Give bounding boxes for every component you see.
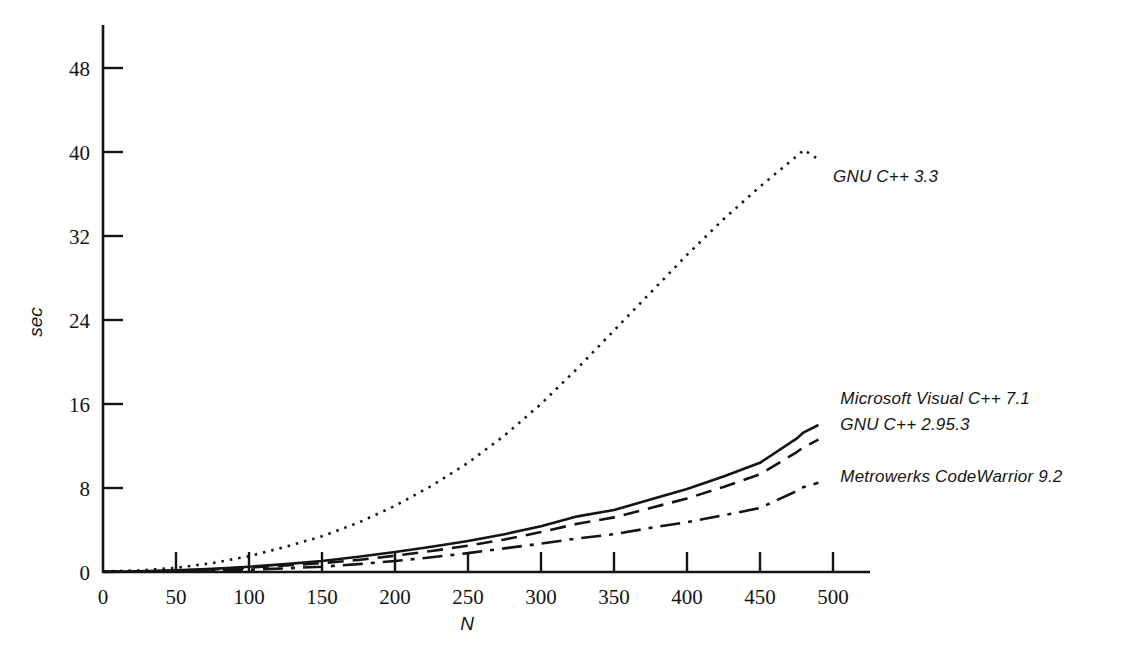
series-label-1: GNU C++ 3.3 [833, 167, 938, 187]
y-axis-title: sec [25, 307, 46, 337]
x-tick-label: 200 [379, 585, 411, 609]
x-tick-label: 500 [817, 585, 849, 609]
y-tick-label: 40 [69, 141, 90, 165]
y-tick-label: 16 [69, 393, 90, 417]
x-tick-label: 150 [306, 585, 338, 609]
x-tick-label: 300 [525, 585, 557, 609]
x-tick-label: 100 [233, 585, 265, 609]
x-tick-label: 400 [671, 585, 703, 609]
x-tick-labels: 050100150200250300350400450500 [98, 585, 849, 609]
axis-layer: 081624324048 050100150200250300350400450… [69, 25, 870, 609]
x-tick-label: 350 [598, 585, 630, 609]
x-axis-title: N [460, 613, 474, 634]
series-line-1 [103, 150, 818, 572]
y-tick-label: 24 [69, 309, 91, 333]
x-tick-label: 450 [744, 585, 776, 609]
series-label-4: Metrowerks CodeWarrior 9.2 [840, 467, 1062, 487]
y-tick-label: 32 [69, 225, 90, 249]
x-tick-label: 50 [166, 585, 187, 609]
series-line-3 [103, 440, 818, 572]
y-tick-marks [103, 68, 123, 488]
y-tick-label: 48 [69, 57, 90, 81]
series-line-2 [103, 425, 818, 572]
series-layer [103, 150, 818, 572]
line-chart-canvas: 081624324048 050100150200250300350400450… [0, 0, 1121, 665]
y-tick-label: 0 [80, 561, 91, 585]
y-tick-labels: 081624324048 [69, 57, 91, 585]
series-label-3: GNU C++ 2.95.3 [840, 415, 969, 435]
x-tick-label: 250 [452, 585, 484, 609]
x-tick-label: 0 [98, 585, 109, 609]
series-line-4 [103, 483, 818, 572]
y-tick-label: 8 [80, 477, 91, 501]
chart-figure: 081624324048 050100150200250300350400450… [0, 0, 1121, 665]
series-label-2: Microsoft Visual C++ 7.1 [840, 389, 1030, 409]
